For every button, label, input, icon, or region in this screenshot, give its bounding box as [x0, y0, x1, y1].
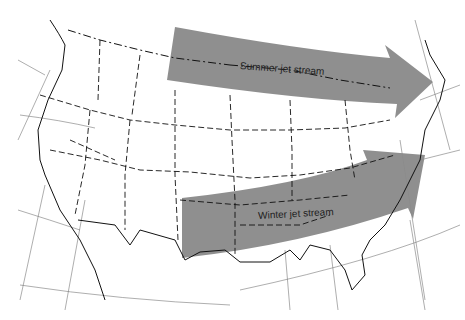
arrows: [167, 27, 433, 258]
jet-stream-map: Summer jet stream Winter jet stream: [0, 0, 465, 320]
winter-jet-stream-arrow: [182, 150, 425, 258]
map-canvas: [0, 0, 465, 320]
